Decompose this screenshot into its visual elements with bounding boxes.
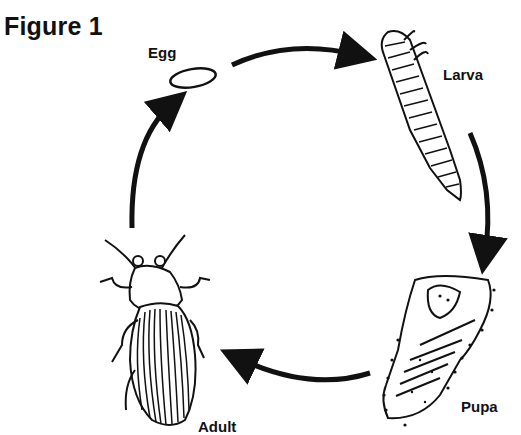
arrow-adult-to-egg xyxy=(132,104,172,228)
arrow-egg-to-larva xyxy=(232,48,358,65)
arrow-larva-to-pupa xyxy=(470,133,488,255)
stage-label-larva: Larva xyxy=(443,66,483,83)
egg-illustration xyxy=(169,65,217,91)
larva-illustration xyxy=(382,31,461,200)
stage-label-pupa: Pupa xyxy=(461,398,498,415)
arrow-pupa-to-adult xyxy=(238,358,370,380)
adult-beetle-illustration xyxy=(100,235,210,425)
stage-label-egg: Egg xyxy=(148,44,176,61)
stage-label-adult: Adult xyxy=(198,418,236,435)
